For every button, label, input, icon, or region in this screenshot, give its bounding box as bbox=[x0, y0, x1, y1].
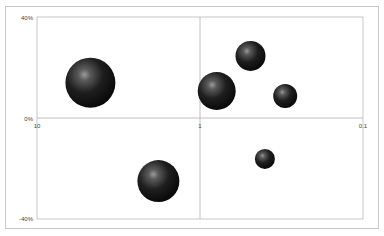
y-tick-minus-40: -40% bbox=[19, 216, 34, 222]
bubble-chart: 40% 0% -40% 10 1 0.1 bbox=[0, 0, 384, 236]
y-tick-40: 40% bbox=[21, 15, 34, 21]
x-tick-0-1: 0.1 bbox=[359, 123, 368, 129]
x-tick-1: 1 bbox=[198, 123, 202, 129]
bubble-2 bbox=[137, 160, 179, 202]
bubble-4 bbox=[236, 41, 266, 71]
bubble-3 bbox=[198, 72, 236, 110]
bubble-5 bbox=[273, 84, 297, 108]
y-tick-0: 0% bbox=[24, 116, 33, 122]
bubble-6 bbox=[255, 149, 275, 169]
bubble-1 bbox=[65, 58, 115, 108]
bubble-series bbox=[65, 41, 297, 202]
x-tick-10: 10 bbox=[34, 123, 41, 129]
